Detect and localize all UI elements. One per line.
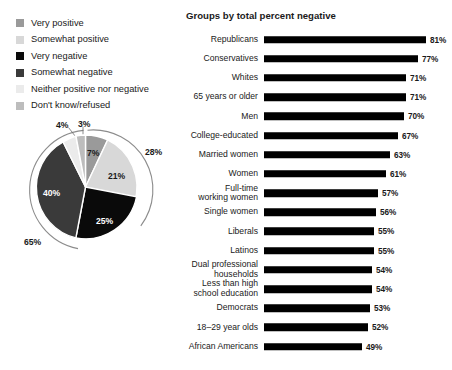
legend-item-neither: Neither positive nor negative xyxy=(16,81,176,98)
bar-category-line1: Dual professional xyxy=(192,259,258,269)
pie-label-total-positive: 28% xyxy=(145,147,162,157)
bar-category-line1: Conservatives xyxy=(204,53,258,63)
bar-category-label: Dual professionalhouseholds xyxy=(186,260,264,279)
bar-category-line1: 65 years or older xyxy=(194,91,259,101)
bar-category-label: Latinos xyxy=(186,246,264,256)
bar-category-line1: Single women xyxy=(204,206,258,216)
bar-fill xyxy=(264,151,390,159)
bar-category-label: Less than highschool education xyxy=(186,279,264,298)
bar-track: 61% xyxy=(264,164,448,183)
bar-fill xyxy=(264,113,404,121)
bar-fill xyxy=(264,189,378,197)
pie-label-very-positive: 7% xyxy=(87,148,99,158)
bar-row: 65 years or older71% xyxy=(186,88,448,107)
bar-value-label: 61% xyxy=(390,169,406,178)
pie-slice-very-negative xyxy=(76,187,137,239)
bar-value-label: 71% xyxy=(410,73,426,82)
legend-item-dont-know: Don't know/refused xyxy=(16,98,176,115)
bar-category-label: Republicans xyxy=(186,35,264,45)
legend-swatch-icon xyxy=(16,69,24,77)
bar-track: 54% xyxy=(264,279,448,298)
bar-category-line1: Whites xyxy=(232,72,258,82)
legend-item-very-negative: Very negative xyxy=(16,48,176,65)
bar-category-line1: 18–29 year olds xyxy=(197,322,258,332)
bar-value-label: 70% xyxy=(408,112,424,121)
bar-value-label: 57% xyxy=(382,189,398,198)
bar-track: 55% xyxy=(264,222,448,241)
bar-fill xyxy=(264,93,406,101)
bar-category-line1: African Americans xyxy=(189,341,258,351)
bar-value-label: 77% xyxy=(422,54,438,63)
bar-fill xyxy=(264,209,376,217)
bar-fill xyxy=(264,170,386,178)
bar-value-label: 55% xyxy=(378,227,394,236)
bar-fill xyxy=(264,55,418,63)
bar-row: Men70% xyxy=(186,107,448,126)
bar-category-label: 18–29 year olds xyxy=(186,323,264,333)
bar-fill xyxy=(264,266,372,274)
bar-category-line1: Men xyxy=(241,111,258,121)
pie-label-very-negative: 25% xyxy=(96,216,113,226)
bar-category-label: Single women xyxy=(186,207,264,217)
bar-value-label: 81% xyxy=(430,35,446,44)
bar-track: 70% xyxy=(264,107,448,126)
legend-item-somewhat-positive: Somewhat positive xyxy=(16,32,176,49)
bar-track: 81% xyxy=(264,30,448,49)
bar-fill xyxy=(264,343,362,351)
pie-label-neither: 4% xyxy=(56,120,68,130)
bar-chart-title: Groups by total percent negative xyxy=(186,10,448,21)
bar-fill xyxy=(264,304,370,312)
bar-category-line1: College-educated xyxy=(191,130,258,140)
bar-fill xyxy=(264,285,372,293)
bar-fill xyxy=(264,132,398,140)
bar-value-label: 56% xyxy=(380,208,396,217)
bar-fill xyxy=(264,324,368,332)
bar-category-line1: Women xyxy=(229,168,258,178)
legend-swatch-icon xyxy=(16,102,24,110)
pie-label-dont-know: 3% xyxy=(78,119,90,129)
bar-category-label: Democrats xyxy=(186,303,264,313)
bar-value-label: 49% xyxy=(366,342,382,351)
bar-category-line1: Less than high xyxy=(202,278,258,288)
legend-item-label: Very negative xyxy=(31,52,87,61)
legend-item-somewhat-negative: Somewhat negative xyxy=(16,65,176,82)
bar-category-line2: working women xyxy=(186,193,258,203)
bar-value-label: 63% xyxy=(394,150,410,159)
legend-swatch-icon xyxy=(16,85,24,93)
bar-row: Democrats53% xyxy=(186,299,448,318)
bar-category-line1: Full-time xyxy=(225,183,258,193)
bar-track: 63% xyxy=(264,145,448,164)
bar-row: Latinos55% xyxy=(186,241,448,260)
bar-category-line1: Married women xyxy=(199,149,258,159)
bar-category-label: Liberals xyxy=(186,227,264,237)
bar-value-label: 54% xyxy=(376,285,392,294)
bar-category-line2: school education xyxy=(186,289,258,299)
bar-fill xyxy=(264,228,374,236)
bar-value-label: 71% xyxy=(410,93,426,102)
bar-category-label: African Americans xyxy=(186,342,264,352)
bar-row: Full-timeworking women57% xyxy=(186,184,448,203)
legend-item-label: Somewhat positive xyxy=(31,35,109,44)
bar-value-label: 54% xyxy=(376,265,392,274)
pie-label-total-negative: 65% xyxy=(24,237,41,247)
infographic-page: Very positive Somewhat positive Very neg… xyxy=(0,0,452,370)
bar-category-label: Whites xyxy=(186,73,264,83)
legend-item-label: Very positive xyxy=(31,19,84,28)
bar-category-line1: Liberals xyxy=(228,226,258,236)
bar-row: Married women63% xyxy=(186,145,448,164)
bar-category-label: College-educated xyxy=(186,131,264,141)
bar-category-label: Women xyxy=(186,169,264,179)
bar-chart: Groups by total percent negative Republi… xyxy=(186,10,448,356)
bar-fill xyxy=(264,36,426,44)
bar-row: Whites71% xyxy=(186,68,448,87)
bar-value-label: 53% xyxy=(374,304,390,313)
bar-row: Republicans81% xyxy=(186,30,448,49)
bar-chart-rows: Republicans81%Conservatives77%Whites71%6… xyxy=(186,30,448,356)
bar-row: Conservatives77% xyxy=(186,49,448,68)
bar-category-line1: Republicans xyxy=(211,34,258,44)
bar-fill xyxy=(264,247,374,255)
bar-track: 55% xyxy=(264,241,448,260)
legend-item-label: Don't know/refused xyxy=(31,101,110,110)
bar-track: 54% xyxy=(264,260,448,279)
bar-row: Single women56% xyxy=(186,203,448,222)
